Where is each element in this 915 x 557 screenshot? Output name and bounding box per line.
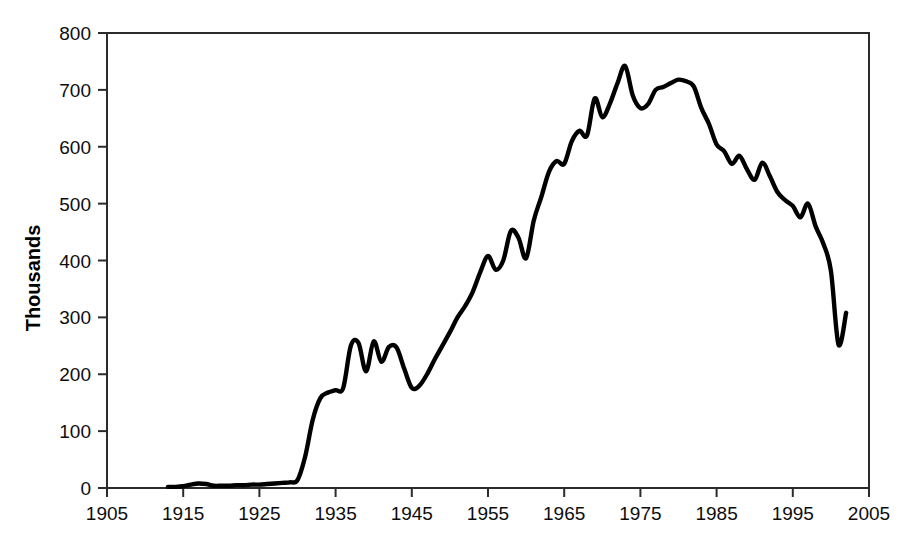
y-tick-label: 700: [59, 80, 91, 101]
data-series-group: [168, 66, 846, 487]
x-tick-label: 1975: [619, 503, 661, 524]
x-tick-label: 1925: [238, 503, 280, 524]
y-axis-ticks: [98, 33, 107, 488]
plot-border: [107, 33, 869, 488]
y-tick-label: 300: [59, 307, 91, 328]
line-chart: 0100200300400500600700800 19051915192519…: [0, 0, 915, 557]
x-tick-label: 2005: [848, 503, 890, 524]
y-tick-label: 0: [80, 478, 91, 499]
x-tick-label: 1955: [467, 503, 509, 524]
x-axis-tick-labels: 1905191519251935194519551965197519851995…: [86, 503, 890, 524]
x-tick-label: 1965: [543, 503, 585, 524]
y-tick-label: 200: [59, 364, 91, 385]
x-tick-label: 1995: [772, 503, 814, 524]
y-tick-label: 400: [59, 251, 91, 272]
x-tick-label: 1905: [86, 503, 128, 524]
x-axis-ticks: [107, 488, 869, 497]
plot-frame: [107, 33, 869, 488]
x-tick-label: 1945: [391, 503, 433, 524]
x-tick-label: 1935: [314, 503, 356, 524]
y-axis-tick-labels: 0100200300400500600700800: [59, 23, 91, 499]
y-tick-label: 600: [59, 137, 91, 158]
y-tick-label: 500: [59, 194, 91, 215]
x-tick-label: 1915: [162, 503, 204, 524]
chart-container: 0100200300400500600700800 19051915192519…: [0, 0, 915, 557]
data-line: [168, 66, 846, 487]
x-tick-label: 1985: [695, 503, 737, 524]
y-tick-label: 800: [59, 23, 91, 44]
y-tick-label: 100: [59, 421, 91, 442]
y-axis-title: Thousands: [22, 225, 44, 332]
